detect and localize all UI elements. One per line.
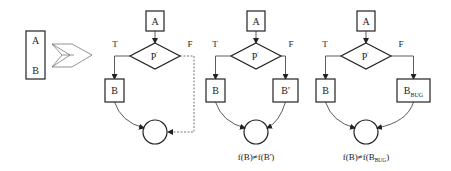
double-chevron-arrow-icon	[52, 44, 92, 67]
true-branch-label: T	[112, 39, 118, 49]
flowchart-original: AP'TFB	[105, 11, 194, 144]
edge-false-direct	[168, 56, 194, 132]
edge-false-branch	[391, 56, 414, 79]
block-false	[397, 79, 430, 102]
merge-node	[244, 120, 268, 144]
false-branch-label: F	[187, 39, 192, 49]
block-b-label: B	[212, 85, 219, 96]
edge-false-branch	[281, 56, 286, 79]
block-b-label: B	[111, 85, 118, 96]
flowchart-buggy: AP'TFBBBUGf(B)≠f(BBUG)	[316, 11, 430, 163]
edge-true-branch	[326, 56, 342, 79]
block-false-label: B'	[281, 85, 290, 96]
edge-true-branch	[115, 56, 131, 79]
source-block: A B	[26, 31, 45, 79]
edge-true-branch	[216, 56, 232, 79]
block-a-label: A	[151, 16, 159, 27]
edge-b-to-merge	[216, 102, 246, 128]
edge-b-to-merge	[326, 102, 356, 128]
edge-b-to-merge	[115, 102, 145, 128]
inequality-caption: f(B)≠f(BBUG)	[343, 152, 390, 163]
merge-node	[143, 120, 167, 144]
inequality-caption: f(B)≠f(B')	[238, 152, 275, 162]
true-branch-label: T	[212, 39, 218, 49]
true-branch-label: T	[322, 39, 328, 49]
false-branch-label: F	[288, 39, 293, 49]
block-a-label: A	[362, 16, 370, 27]
flowchart-canvas: A B AP'TFBAP'TFBB'f(B)≠f(B')AP'TFBBBUGf(…	[0, 0, 451, 171]
block-b-label: B	[322, 85, 329, 96]
edge-false-to-merge	[267, 102, 286, 128]
false-branch-label: F	[398, 39, 403, 49]
source-label-b: B	[32, 65, 39, 76]
source-label-a: A	[32, 35, 40, 46]
block-a-label: A	[252, 16, 260, 27]
flowchart-modified: AP'TFBB'f(B)≠f(B')	[206, 11, 298, 162]
merge-node	[354, 120, 378, 144]
edge-false-to-merge	[377, 102, 414, 128]
flowcharts: AP'TFBAP'TFBB'f(B)≠f(B')AP'TFBBBUGf(B)≠f…	[105, 11, 430, 163]
